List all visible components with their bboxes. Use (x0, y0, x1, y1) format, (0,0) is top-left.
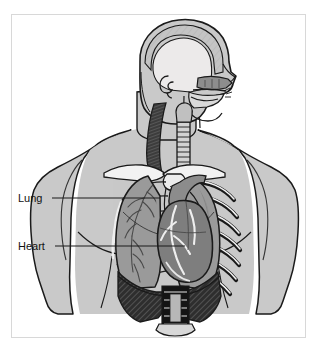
sacrum-base (156, 324, 195, 336)
label-lung: Lung (18, 192, 42, 204)
heart (157, 201, 212, 283)
larynx (176, 103, 192, 122)
anatomy-illustration: Lung Heart (0, 0, 319, 351)
figure-root: Lung Heart (0, 0, 319, 351)
heart-group (157, 201, 212, 283)
label-heart: Heart (18, 240, 45, 252)
spine-group (156, 286, 195, 336)
vertebra-body-highlight (170, 294, 181, 322)
nasal-cavity (197, 77, 232, 90)
